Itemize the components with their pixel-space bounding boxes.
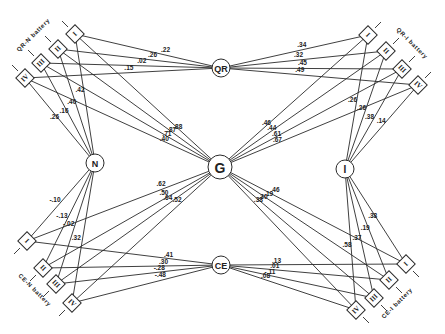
loading-g-ce-i-iv: .38: [254, 196, 263, 203]
input-arrow-icon: [45, 36, 51, 42]
path-g-ce-i-i: [220, 167, 406, 264]
input-arrow-icon: [59, 310, 65, 316]
node-label: I: [344, 164, 347, 175]
path-ce-ce-n-iv: [72, 265, 221, 303]
path-diagram: .22.26.02.15.34.32.45.49.41.30-.28-.48.1…: [0, 0, 445, 334]
loading-i-ce-i-iv: .58: [343, 241, 352, 248]
box-qr-n-iv: IV: [12, 65, 34, 87]
path-qr-qr-i-iii: [221, 68, 402, 69]
path-g-ce-n-ii: [43, 167, 220, 268]
path-g-ce-n-i: [27, 167, 220, 241]
box-qr-i-iii: III: [393, 56, 415, 78]
loading-i-ce-i-i: .38: [368, 212, 377, 219]
loading-qr-qr-n-iii: .02: [137, 57, 146, 64]
loading-n-ce-n-i: -.10: [49, 196, 61, 203]
path-n-ce-n-iii: [56, 163, 95, 284]
path-ce-ce-i-iii: [221, 265, 374, 298]
factor-node-ce: CE: [212, 256, 230, 274]
path-n-ce-n-ii: [43, 163, 95, 268]
path-n-qr-n-ii: [58, 49, 95, 163]
loading-n-ce-n-ii: -.13: [56, 212, 68, 219]
loading-i-ce-i-ii: .19: [361, 224, 370, 231]
loading-n-ce-n-iv: .32: [72, 234, 81, 241]
path-qr-qr-n-iv: [25, 68, 221, 78]
input-arrow-icon: [425, 72, 431, 78]
path-n-ce-n-i: [27, 163, 95, 241]
path-ce-ce-i-iv: [221, 265, 356, 310]
path-g-qr-n-iv: [25, 78, 220, 167]
loading-n-qr-n-iii: .16: [59, 107, 68, 114]
path-g-ce-n-iv: [72, 167, 220, 303]
box-qr-n-iii: III: [28, 50, 50, 72]
path-ce-ce-i-ii: [221, 265, 389, 280]
box-ce-i-i: I: [397, 255, 419, 277]
input-arrow-icon: [62, 21, 68, 27]
loading-qr-qr-i-ii: .32: [294, 51, 303, 58]
node-label: G: [215, 160, 226, 176]
path-ce-ce-n-ii: [43, 265, 221, 268]
box-ce-i-ii: II: [380, 271, 402, 293]
node-label: CE: [215, 261, 228, 271]
path-g-ce-i-iv: [220, 167, 356, 310]
loading-n-qr-n-i: .42: [75, 86, 84, 93]
factor-node-qr: QR: [212, 59, 230, 77]
loading-ce-ce-n-iii: -.28: [154, 264, 166, 271]
battery-label-ce-n: CE-N battery: [17, 272, 52, 307]
loading-i-ce-i-iii: .37: [352, 234, 361, 241]
factor-node-g: G: [208, 155, 232, 179]
node-label: QR: [214, 64, 228, 74]
loading-ce-ce-n-iv: -.48: [155, 271, 167, 278]
input-arrow-icon: [393, 38, 399, 44]
loading-ce-ce-i-iv: .08: [261, 272, 270, 279]
loading-n-qr-n-iv: .26: [50, 113, 59, 120]
path-g-ce-i-iii: [220, 167, 374, 298]
battery-label-qr-i: QR-I battery: [395, 26, 429, 60]
box-ce-n-ii: II: [30, 259, 52, 281]
factor-nodes: QRCEGNI: [86, 59, 354, 274]
loading-qr-qr-i-iv: .49: [295, 66, 304, 73]
battery-label-qr-n: QR-N battery: [15, 17, 51, 53]
loading-n-qr-n-ii: .40: [67, 98, 76, 105]
input-arrow-icon: [413, 271, 419, 277]
loading-g-qr-i-iv: .67: [273, 136, 282, 143]
loading-qr-qr-i-i: .34: [297, 41, 306, 48]
path-n-ce-n-iv: [72, 163, 95, 303]
loading-qr-qr-n-iv: .15: [124, 64, 133, 71]
factor-node-i: I: [336, 160, 354, 178]
input-arrow-icon: [396, 287, 402, 293]
loading-n-ce-n-iii: -.02: [63, 220, 75, 227]
loading-g-ce-n-iv: .52: [173, 196, 182, 203]
box-ce-n-iii: III: [43, 275, 65, 297]
box-ce-i-iii: III: [365, 289, 387, 311]
input-arrow-icon: [28, 50, 34, 56]
box-ce-n-i: I: [14, 232, 36, 254]
path-g-qr-n-ii: [58, 49, 220, 167]
loading-i-qr-i-ii: .26: [357, 104, 366, 111]
loading-i-qr-i-iv: .14: [377, 117, 386, 124]
node-label: N: [92, 159, 99, 169]
box-qr-i-iv: IV: [409, 72, 431, 94]
input-arrow-icon: [12, 65, 18, 71]
input-arrow-icon: [14, 248, 20, 254]
path-ce-ce-n-i: [27, 241, 221, 265]
input-arrow-icon: [363, 317, 369, 323]
loading-qr-qr-n-i: .22: [161, 46, 170, 53]
box-qr-i-i: I: [359, 22, 381, 44]
box-qr-n-ii: II: [45, 36, 67, 58]
factor-node-n: N: [86, 154, 104, 172]
loading-g-qr-n-iv: .40: [160, 135, 169, 142]
loading-qr-qr-n-ii: .26: [148, 51, 157, 58]
input-arrow-icon: [409, 56, 415, 62]
input-arrow-icon: [375, 22, 381, 28]
path-ce-ce-n-iii: [56, 265, 221, 284]
loading-i-qr-i-iii: .38: [365, 113, 374, 120]
box-qr-i-ii: II: [377, 38, 399, 60]
loading-g-ce-n-iii: .64: [163, 194, 172, 201]
loading-g-ce-n-i: .62: [157, 180, 166, 187]
battery-label-ce-i: CE-I battery: [380, 287, 413, 320]
input-arrow-icon: [30, 275, 36, 281]
loading-i-qr-i-i: .26: [348, 96, 357, 103]
